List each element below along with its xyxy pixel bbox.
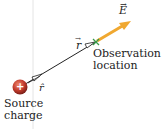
source-label-line1: Source <box>4 98 43 109</box>
field-arrowhead <box>119 21 131 30</box>
r-hat-label: r̂ <box>39 82 44 93</box>
observation-label-line1: Observation <box>93 48 161 59</box>
field-arrow <box>97 25 124 41</box>
source-label-line2: charge <box>4 110 43 121</box>
field-label: →E <box>119 5 127 16</box>
charge-sign: + <box>16 81 24 92</box>
observation-label-line2: location <box>93 60 138 71</box>
r-vector-label: →r <box>76 40 81 51</box>
